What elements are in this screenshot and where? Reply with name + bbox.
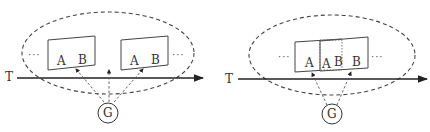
left-axis-label: T <box>5 70 13 84</box>
left-frame-2 <box>121 36 168 70</box>
right-ray-1 <box>312 73 327 105</box>
right-g-label: G <box>327 107 337 121</box>
right-label-a2: A <box>321 57 331 71</box>
right-ellipsis-left: ··· <box>278 51 291 62</box>
left-frame-2-label-b: B <box>151 53 160 67</box>
left-g-label: G <box>103 106 113 120</box>
left-frame-1-label-b: B <box>78 53 87 67</box>
right-diagram: T ··· ··· A A B B G <box>225 15 427 124</box>
right-ellipsis-right: ··· <box>371 51 384 62</box>
right-label-b2: B <box>352 55 361 69</box>
left-ray-3 <box>114 69 143 102</box>
left-frame-1-label-a: A <box>56 54 66 68</box>
left-ellipsis-left: ··· <box>28 49 41 60</box>
left-ellipsis-right: ··· <box>172 49 185 60</box>
right-axis-label: T <box>225 72 233 86</box>
left-frame-1 <box>48 36 95 70</box>
left-ray-1 <box>76 69 104 102</box>
right-label-b1: B <box>334 55 343 69</box>
right-label-a1: A <box>304 56 314 70</box>
left-frame-2-label-a: A <box>129 54 139 68</box>
left-diagram: T ··· ··· A B A B G <box>5 12 203 123</box>
diagram-canvas: T ··· ··· A B A B G T ··· ··· A A B B <box>0 0 430 132</box>
right-ray-2 <box>337 72 351 105</box>
